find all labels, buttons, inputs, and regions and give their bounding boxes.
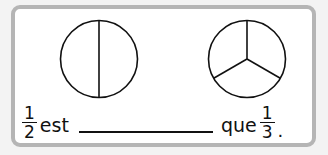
fraction-denominator: 2 xyxy=(24,123,35,142)
fraction-numerator: 1 xyxy=(260,104,275,123)
word-est: est xyxy=(40,114,69,136)
comparison-sentence: 1 2 est que 1 3 . xyxy=(22,100,283,146)
fraction-denominator: 3 xyxy=(262,123,273,142)
third-circle-figure xyxy=(206,18,288,100)
word-que: que xyxy=(221,114,257,136)
fraction-numerator: 1 xyxy=(22,104,37,123)
half-circle-figure xyxy=(58,18,140,100)
fraction-one-half: 1 2 xyxy=(22,104,37,142)
period: . xyxy=(278,120,284,141)
fraction-one-third: 1 3 xyxy=(260,104,275,142)
answer-blank[interactable] xyxy=(79,131,213,133)
